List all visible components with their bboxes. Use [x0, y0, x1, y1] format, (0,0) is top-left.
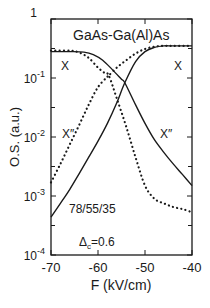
delta-c-label: Δc=0.6	[79, 235, 115, 251]
y-tick-label: 10-2	[24, 128, 45, 145]
chart-title: GaAs-Ga(Al)As	[73, 27, 169, 43]
chart: 110-110-210-310-4 -70-60-50-40 GaAs-Ga(A…	[0, 0, 210, 308]
structure-label: 78/55/35	[69, 202, 116, 216]
curve-x	[51, 52, 192, 186]
y-tick-label: 1	[30, 6, 37, 20]
x-tick-label: -60	[89, 260, 108, 275]
curve-label-x-left: X	[61, 59, 69, 73]
curve-label-x2-left: X″	[62, 127, 75, 141]
curve-label-x2-right: X″	[160, 127, 173, 141]
x-axis-title: F (kV/cm)	[91, 277, 152, 293]
y-tick-label: 10-1	[24, 69, 45, 86]
x-tick-label: -70	[42, 260, 61, 275]
y-tick-label: 10-3	[24, 187, 45, 204]
x-tick-label: -50	[136, 260, 155, 275]
x-tick-labels: -70-60-50-40	[42, 260, 202, 275]
y-axis-title: O.S. (a.u.)	[7, 107, 22, 167]
curve-label-x-right: X	[174, 59, 182, 73]
x-tick-label: -40	[183, 260, 202, 275]
y-tick-labels: 110-110-210-310-4	[24, 6, 45, 263]
